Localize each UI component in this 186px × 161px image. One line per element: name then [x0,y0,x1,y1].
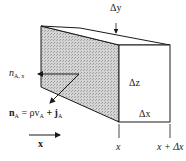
control-volume-diagram [0,0,186,161]
flux-vector-equation: nA = ρvA + jA [9,108,62,119]
x-position-label: x [116,142,120,152]
delta-z-label: Δz [129,78,140,88]
x-axis-label: x [38,139,43,149]
delta-y-label: Δy [110,3,121,13]
flux-component-label: nA, x [9,68,24,79]
delta-x-label: Δx [139,109,150,119]
x-plus-dx-position-label: x + Δx [157,142,184,152]
